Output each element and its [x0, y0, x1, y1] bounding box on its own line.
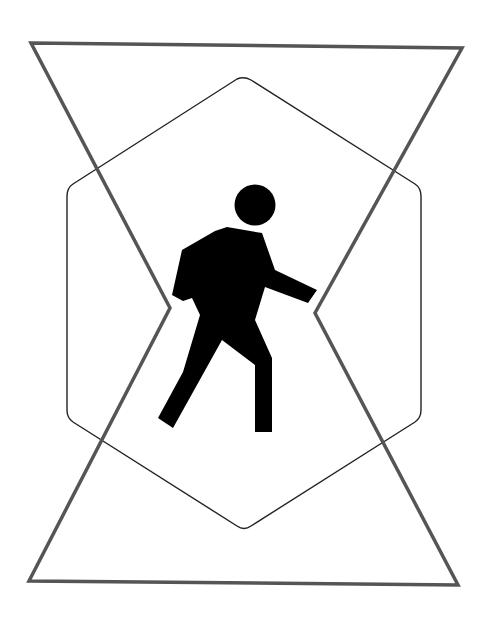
pedestrian-walking-icon	[158, 185, 317, 433]
body-shape	[158, 227, 317, 432]
head-shape	[235, 185, 276, 226]
pedestrian-sign	[0, 0, 493, 619]
